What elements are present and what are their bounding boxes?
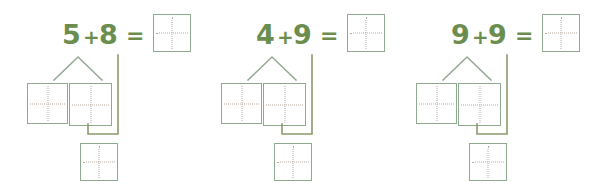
addend-b-1: 8: [99, 20, 118, 50]
addend-b-3: 9: [488, 20, 507, 50]
carry-connector-1: [86, 54, 134, 144]
carry-connector-2: [280, 54, 328, 144]
equals-operator-3: =: [515, 23, 533, 49]
part-box-left-3[interactable]: [416, 83, 457, 124]
sum-box-3[interactable]: [469, 143, 507, 181]
problem-group-1: 5 + 8 =: [0, 0, 198, 193]
part-box-left-2[interactable]: [221, 83, 262, 124]
plus-operator-1: +: [83, 24, 100, 50]
sum-box-2[interactable]: [274, 143, 312, 181]
answer-box-2[interactable]: [347, 14, 385, 52]
part-box-left-1[interactable]: [27, 83, 68, 124]
equals-operator-2: =: [320, 23, 338, 49]
plus-operator-2: +: [277, 24, 294, 50]
plus-operator-3: +: [472, 24, 489, 50]
worksheet-canvas: 5 + 8 = 4 + 9 =: [0, 0, 594, 193]
answer-box-3[interactable]: [542, 14, 580, 52]
equals-operator-1: =: [126, 23, 144, 49]
addend-a-1: 5: [62, 20, 81, 50]
problem-group-2: 4 + 9 =: [194, 0, 392, 193]
problem-group-3: 9 + 9 =: [389, 0, 587, 193]
answer-box-1[interactable]: [153, 14, 191, 52]
addend-a-3: 9: [451, 20, 470, 50]
addend-b-2: 9: [293, 20, 312, 50]
addend-a-2: 4: [256, 20, 275, 50]
sum-box-1[interactable]: [80, 143, 118, 181]
carry-connector-3: [475, 54, 523, 144]
